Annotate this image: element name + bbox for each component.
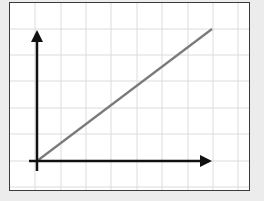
x-axis — [29, 155, 212, 167]
y-axis — [31, 30, 43, 171]
data-line — [37, 29, 212, 161]
linear-graph — [0, 0, 264, 201]
y-axis-arrow-icon — [31, 30, 43, 42]
x-axis-arrow-icon — [200, 155, 212, 167]
